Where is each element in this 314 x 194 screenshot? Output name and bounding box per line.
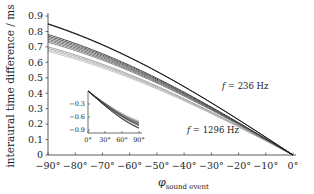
y-tick-label: 0.7 [28,41,43,52]
x-tick-label: −80° [63,160,88,171]
x-axis-label-sub: sound event [166,183,209,191]
x-tick-label: 0° [288,160,299,171]
y-axis-label: interaural time difference / ms [4,4,16,167]
y-tick-label: 0.4 [28,88,43,99]
inset-curve [88,91,139,121]
inset-plot: 0°30°60°90° −0.3−0.6−0.9 [69,91,145,144]
inset-curve [88,91,139,121]
x-tick-label: −20° [226,160,251,171]
inset-x-tick-label: 60° [116,136,128,144]
itd-chart: −90°−80°−70°−60°−50°−40°−30°−20°−10°0° 0… [0,0,314,194]
y-tick-label: 0.9 [28,10,43,21]
x-tick-label: −40° [172,160,197,171]
inset-x-tick-label: 30° [99,136,111,144]
inset-y-tick-label: −0.6 [69,113,85,121]
y-tick-label: 0 [37,149,43,160]
inset-x-tick-label: 0° [84,136,91,144]
inset-y-tick-label: −0.9 [69,126,85,134]
inset-y-tick-label: −0.3 [69,100,85,108]
annotation-236hz: f = 236 Hz [221,81,269,91]
annotation-1296hz-value: = 1296 Hz [190,125,239,135]
x-tick-label: −30° [199,160,224,171]
x-tick-label: −90° [36,160,61,171]
inset-curves [88,91,139,128]
y-tick-label: 0.5 [28,72,43,83]
x-axis-label: φsound event [158,176,209,191]
x-tick-label: −60° [117,160,142,171]
x-tick-label: −50° [144,160,169,171]
y-tick-label: 0.2 [28,118,43,129]
x-tick-label: −70° [90,160,115,171]
y-ticks: 00.10.20.30.40.50.60.70.80.9 [28,10,48,160]
inset-x-tick-label: 90° [133,136,145,144]
y-tick-label: 0.3 [28,103,43,114]
y-tick-label: 0.8 [28,26,43,37]
y-tick-label: 0.6 [28,57,43,68]
inset-y-ticks: −0.3−0.6−0.9 [69,100,90,134]
annotation-236hz-value: = 236 Hz [225,81,269,91]
annotation-1296hz: f = 1296 Hz [186,125,239,135]
x-tick-label: −10° [253,160,278,171]
y-tick-label: 0.1 [28,134,43,145]
inset-curve [88,91,139,122]
